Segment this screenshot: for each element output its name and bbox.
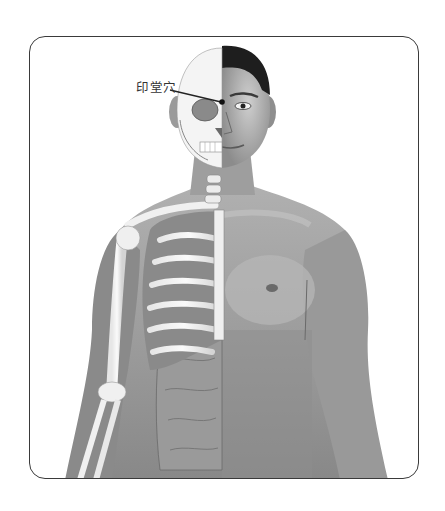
acupoint-label: 印堂穴: [136, 81, 177, 95]
anatomy-illustration: [0, 0, 445, 511]
head: [169, 46, 276, 168]
